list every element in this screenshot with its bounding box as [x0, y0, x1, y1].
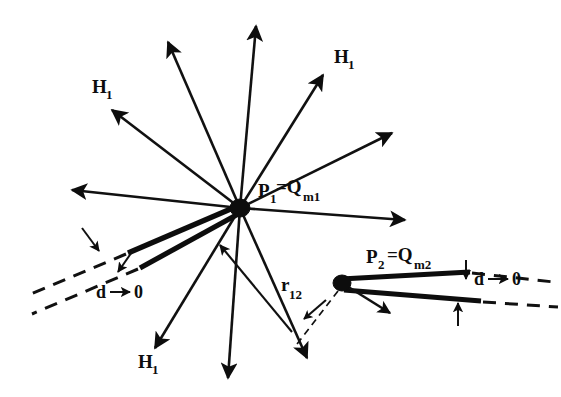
label-p1-eq: =Q: [276, 176, 302, 197]
field-arrow-down-left-h1: [155, 208, 240, 348]
label-d-right: d 0: [474, 269, 521, 289]
label-h1-upper-left-base: H: [92, 76, 107, 97]
field-arrow-down-vertical: [228, 208, 240, 378]
label-p1: P 1 =Q m1: [258, 176, 320, 206]
label-h1-upper-left: H 1: [92, 76, 113, 102]
label-d-left-text: d: [96, 282, 106, 302]
right-wedge-plates: [341, 260, 558, 326]
label-p1-base: P: [258, 180, 270, 201]
label-h1-lower-left: H 1: [138, 351, 159, 377]
field-arrow-right-flat: [240, 208, 405, 220]
label-h1-lower-left-sub: 1: [152, 362, 159, 377]
label-d-right-zero: 0: [512, 269, 521, 289]
label-h1-upper-right: H 1: [334, 46, 355, 72]
label-h1-upper-right-base: H: [334, 46, 349, 67]
label-group: P 1 =Q m1 P 2 =Q m2 r 12 H 1: [92, 46, 521, 377]
label-r12: r 12: [281, 274, 302, 302]
label-p2-base: P: [366, 246, 378, 267]
label-d-left: d 0: [96, 282, 143, 302]
left-gap-arrow-upper: [82, 228, 99, 251]
left-plate-dash-upper: [26, 254, 126, 296]
label-d-left-zero: 0: [134, 282, 143, 302]
right-plate-upper: [341, 272, 470, 279]
node-p1-dot: [230, 199, 250, 217]
field-arrow-left-flat: [72, 190, 240, 208]
figure-root: P 1 =Q m1 P 2 =Q m2 r 12 H 1: [0, 0, 561, 397]
field-arrow-up-left-steep: [168, 42, 240, 208]
field-arrow-up-left-h1: [112, 110, 240, 208]
left-gap-arrow-lower: [118, 249, 134, 272]
field-arrow-down-right: [240, 208, 307, 358]
right-plate-lower: [344, 290, 481, 301]
field-arrow-up-vertical: [240, 26, 256, 208]
label-p2: P 2 =Q m2: [366, 244, 431, 272]
label-h1-upper-right-sub: 1: [348, 57, 355, 72]
right-plate-dash-lower: [483, 302, 558, 307]
r12-arrow: [304, 300, 326, 319]
label-p2-sub2: m2: [414, 257, 431, 272]
node-p2-dot: [333, 275, 351, 291]
label-h1-upper-left-sub: 1: [106, 87, 113, 102]
label-p2-eq: =Q: [387, 244, 413, 265]
label-r12-sub: 12: [289, 287, 302, 302]
label-d-right-text: d: [474, 269, 484, 289]
label-h1-lower-left-base: H: [138, 351, 153, 372]
monopole-field-diagram: P 1 =Q m1 P 2 =Q m2 r 12 H 1: [0, 0, 561, 397]
label-p1-sub2: m1: [303, 189, 320, 204]
label-p2-sub: 2: [378, 257, 385, 272]
